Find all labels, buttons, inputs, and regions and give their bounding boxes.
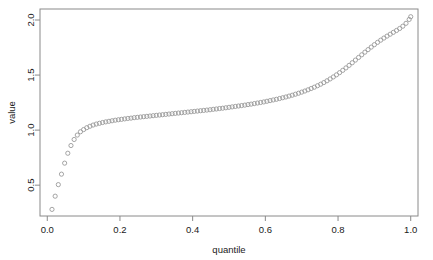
y-tick-label: 1.0 xyxy=(26,124,37,137)
data-point xyxy=(72,137,76,141)
data-point xyxy=(404,21,408,25)
plot-box xyxy=(40,9,418,216)
data-point xyxy=(69,143,73,147)
data-point xyxy=(56,183,60,187)
x-tick-label: 0.8 xyxy=(331,224,344,235)
y-axis-title: value xyxy=(6,101,17,124)
x-axis-title: quantile xyxy=(212,244,245,255)
data-point-series xyxy=(50,15,413,212)
chart-canvas: 0.00.20.40.60.81.0 0.51.01.52.0 quantile… xyxy=(0,0,433,260)
y-tick-label: 2.0 xyxy=(25,13,36,26)
x-tick-label: 0.0 xyxy=(41,224,54,235)
y-tick-label: 1.5 xyxy=(26,68,37,81)
x-axis-tick-labels: 0.00.20.40.60.81.0 xyxy=(41,224,418,235)
x-axis-ticks xyxy=(47,216,410,221)
data-point xyxy=(53,194,57,198)
data-point xyxy=(63,161,67,165)
x-tick-label: 0.4 xyxy=(186,224,199,235)
y-tick-label: 0.5 xyxy=(26,179,37,192)
x-tick-label: 0.2 xyxy=(113,224,126,235)
y-axis-tick-labels: 0.51.01.52.0 xyxy=(25,13,36,191)
quantile-scatter-plot: 0.00.20.40.60.81.0 0.51.01.52.0 quantile… xyxy=(0,0,433,260)
data-point xyxy=(50,207,54,211)
data-point xyxy=(66,151,70,155)
x-tick-label: 1.0 xyxy=(404,224,417,235)
x-tick-label: 0.6 xyxy=(259,224,272,235)
y-axis-ticks xyxy=(35,20,40,185)
data-point xyxy=(59,172,63,176)
